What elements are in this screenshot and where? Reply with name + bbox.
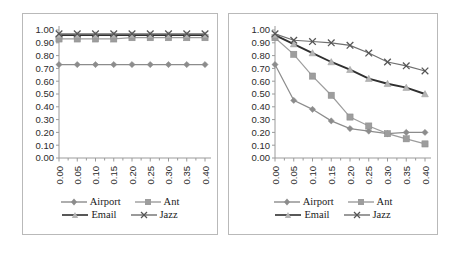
x-axis-tick-label: 0.20 [345,166,356,185]
legend-row: Airport Ant [274,196,393,207]
y-axis-tick-label: 0.00 [36,152,55,163]
y-axis-tick-label: 1.00 [36,24,55,35]
y-axis-tick-label: 0.30 [252,114,271,125]
legend-label: Email [91,209,116,220]
y-axis-tick-label: 0.90 [36,37,55,48]
x-axis-tick-label: 0.30 [382,166,393,185]
y-axis-tick-label: 0.40 [36,101,55,112]
y-axis-tick-label: 0.50 [252,88,271,99]
x-axis-tick-label: 0.15 [326,166,337,185]
legend-marker-diamond-icon [61,197,87,207]
y-axis-tick-label: 0.10 [36,140,55,151]
chart-panel-left: 0.000.100.200.300.400.500.600.700.800.90… [22,13,218,235]
x-axis-tick-label: 0.10 [307,166,318,185]
legend-label: Airport [303,196,334,207]
series-airport [56,61,208,67]
y-axis-tick-label: 0.80 [36,50,55,61]
legend-item-email[interactable]: Email [62,209,116,220]
legend-row: Email Jazz [275,209,390,220]
legend-label: Airport [90,196,121,207]
x-axis-tick-label: 0.15 [108,166,119,185]
y-axis-tick-label: 0.80 [252,50,271,61]
legend-label: Ant [164,196,180,207]
x-axis-tick-label: 0.05 [72,166,83,185]
y-axis-tick-label: 0.10 [252,140,271,151]
legend-row: Airport Ant [61,196,180,207]
x-axis-tick-label: 0.35 [181,166,192,185]
legend-marker-triangle-icon [275,210,301,220]
legend-label: Jazz [160,209,178,220]
legend-marker-cross-icon [344,210,370,220]
y-axis-tick-label: 0.20 [252,127,271,138]
y-axis-tick-label: 1.00 [252,24,271,35]
legend-marker-square-icon [348,197,374,207]
x-axis-tick-label: 0.25 [145,166,156,185]
y-axis-tick-label: 0.70 [36,63,55,74]
legend-item-jazz[interactable]: Jazz [344,209,391,220]
legend-label: Email [304,209,329,220]
y-axis-tick-label: 0.60 [252,76,271,87]
figure-root: 0.000.100.200.300.400.500.600.700.800.90… [0,0,454,264]
y-axis-tick-label: 0.70 [252,63,271,74]
y-axis-tick-label: 0.20 [36,127,55,138]
legend-marker-square-icon [135,197,161,207]
x-axis-tick-label: 0.20 [127,166,138,185]
legend-left: Airport Ant Email [23,196,217,220]
legend-item-airport[interactable]: Airport [274,196,334,207]
x-axis-tick-label: 0.30 [163,166,174,185]
legend-item-ant[interactable]: Ant [135,196,180,207]
legend-right: Airport Ant Email [229,196,437,220]
legend-marker-cross-icon [131,210,157,220]
y-axis-tick-label: 0.00 [252,152,271,163]
y-axis-tick-label: 0.60 [36,76,55,87]
chart-panel-right: 0.000.100.200.300.400.500.600.700.800.90… [228,13,438,235]
y-axis-tick-label: 0.30 [36,114,55,125]
series-airport [272,61,428,136]
x-axis-tick-label: 0.05 [288,166,299,185]
legend-marker-triangle-icon [62,210,88,220]
x-axis-tick-label: 0.35 [401,166,412,185]
legend-label: Ant [377,196,393,207]
legend-label: Jazz [373,209,391,220]
legend-item-jazz[interactable]: Jazz [131,209,178,220]
y-axis-tick-label: 0.50 [36,88,55,99]
x-axis-tick-label: 0.10 [90,166,101,185]
legend-item-ant[interactable]: Ant [348,196,393,207]
x-axis-tick-label: 0.40 [420,166,431,185]
x-axis-tick-label: 0.25 [363,166,374,185]
x-axis-tick-label: 0.40 [200,166,211,185]
legend-marker-diamond-icon [274,197,300,207]
x-axis-tick-label: 0.00 [270,166,281,185]
y-axis-tick-label: 0.40 [252,101,271,112]
x-axis-tick-label: 0.00 [54,166,65,185]
y-axis-tick-label: 0.90 [252,37,271,48]
legend-item-email[interactable]: Email [275,209,329,220]
legend-item-airport[interactable]: Airport [61,196,121,207]
legend-row: Email Jazz [62,209,177,220]
